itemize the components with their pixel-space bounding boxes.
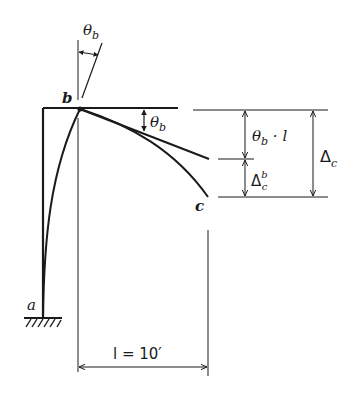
label-theta-top: θb	[83, 21, 99, 42]
label-a: a	[27, 296, 36, 314]
label-delta-c: Δc	[320, 147, 337, 170]
label-b: b	[62, 89, 73, 107]
rotated-line-top	[82, 43, 102, 98]
label-c: c	[195, 197, 204, 215]
label-theta-l: θb · l	[252, 127, 287, 148]
deflected-column	[43, 109, 80, 318]
fixed-support	[24, 318, 62, 327]
label-span: l = 10′	[113, 345, 162, 363]
theta-top-dim	[79, 52, 98, 55]
frame-diagram: b a c θb θb θb · l Δbc Δc l = 10′	[0, 0, 354, 399]
label-delta-cb: Δbc	[251, 169, 268, 192]
label-theta-beam: θb	[150, 113, 166, 134]
